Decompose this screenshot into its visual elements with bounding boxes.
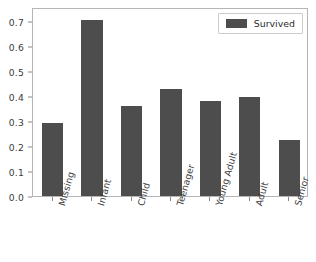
y-axis-tick-mark — [28, 72, 32, 73]
y-axis-tick-label: 0.0 — [9, 192, 24, 203]
bar-infant — [81, 20, 102, 196]
y-axis-tick-mark — [28, 22, 32, 23]
y-axis-tick-mark — [28, 172, 32, 173]
y-axis-tick-label: 0.7 — [9, 17, 24, 28]
x-axis-tick-mark — [131, 197, 132, 201]
y-axis-tick-label: 0.1 — [9, 167, 24, 178]
x-axis-tick-mark — [209, 197, 210, 201]
y-axis-tick-label: 0.6 — [9, 42, 24, 53]
bar-missing — [42, 123, 63, 196]
bar-child — [121, 106, 142, 197]
chart-legend[interactable]: Survived — [218, 13, 303, 34]
x-axis-tick-label: Child — [135, 204, 146, 207]
y-axis-tick-label: 0.5 — [9, 67, 24, 78]
legend-label-survived: Survived — [254, 18, 295, 29]
bar-senior — [279, 140, 300, 197]
x-axis-tick-label: Missing — [56, 204, 67, 207]
x-axis-tick-mark — [170, 197, 171, 201]
x-axis-tick-mark — [52, 197, 53, 201]
y-axis-tick-mark — [28, 197, 32, 198]
y-axis-tick-label: 0.3 — [9, 117, 24, 128]
x-axis-tick-mark — [249, 197, 250, 201]
y-axis-tick-label: 0.2 — [9, 142, 24, 153]
x-axis-tick-label: Adult — [253, 204, 264, 207]
y-axis-tick-label: 0.4 — [9, 92, 24, 103]
x-axis-tick-label: Young Adult — [213, 204, 224, 207]
x-axis-tick-mark — [91, 197, 92, 201]
x-axis-tick-mark — [288, 197, 289, 201]
y-axis-tick-mark — [28, 47, 32, 48]
y-axis: 0.00.10.20.30.40.50.60.7 — [0, 0, 32, 262]
figure-canvas: Survived 0.00.10.20.30.40.50.60.7 Missin… — [0, 0, 316, 262]
y-axis-tick-mark — [28, 147, 32, 148]
x-axis-tick-label: Teenager — [174, 204, 185, 207]
y-axis-tick-mark — [28, 97, 32, 98]
x-axis-tick-label: Infant — [95, 204, 106, 207]
plot-area: Survived — [32, 8, 308, 197]
bar-young-adult — [200, 101, 221, 196]
bar-teenager — [160, 89, 181, 196]
x-axis-tick-label: Senior — [292, 204, 303, 207]
bar-adult — [239, 97, 260, 197]
y-axis-tick-mark — [28, 122, 32, 123]
legend-swatch-survived — [226, 19, 247, 28]
